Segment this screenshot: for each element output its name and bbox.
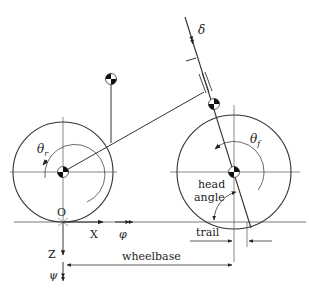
handlebar bbox=[186, 58, 196, 61]
z-axis-label: Z bbox=[48, 248, 56, 261]
front-wheel bbox=[170, 105, 300, 262]
front-wheel-hub-cg-icon bbox=[229, 167, 240, 178]
phi-label: φ bbox=[119, 228, 127, 241]
x-axis-label: X bbox=[90, 228, 98, 241]
head-angle-label-line1: head bbox=[198, 178, 225, 191]
theta-f-label: θf bbox=[250, 132, 262, 148]
front-frame-cg-icon bbox=[209, 99, 220, 110]
rear-frame-bar bbox=[63, 92, 204, 172]
origin-label: O bbox=[57, 206, 66, 219]
wheelbase-label: wheelbase bbox=[122, 250, 181, 263]
psi-label: ψ bbox=[49, 269, 58, 282]
rear-wheel-hub-cg-icon bbox=[58, 167, 69, 178]
rear-frame-cg-icon bbox=[106, 74, 117, 85]
head-angle-label-line2: angle bbox=[194, 191, 225, 204]
bicycle-model-diagram: δ θr θf O X φ Z ψ wheelbase head angle bbox=[0, 0, 309, 297]
delta-label: δ bbox=[198, 23, 205, 37]
trail-label: trail bbox=[196, 226, 220, 239]
theta-r-label: θr bbox=[37, 142, 49, 158]
